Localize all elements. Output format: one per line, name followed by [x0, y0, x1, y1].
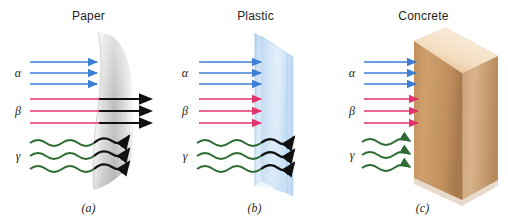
- plastic-slab-shape: [255, 33, 293, 196]
- panel-paper: Paper: [0, 0, 169, 222]
- ray-label-gamma-plastic: γ: [177, 149, 193, 164]
- concrete-block-shape: [414, 28, 498, 206]
- ray-label-gamma-paper: γ: [10, 149, 26, 164]
- ray-label-alpha-plastic: α: [177, 66, 193, 81]
- panel-caption-b: (b): [169, 201, 338, 216]
- alpha-rays-concrete: [364, 62, 416, 84]
- ray-label-beta-plastic: β: [177, 104, 193, 119]
- panel-caption-a: (a): [0, 201, 169, 216]
- ray-label-beta-paper: β: [10, 104, 26, 119]
- alpha-rays-plastic: [199, 62, 261, 84]
- ray-label-alpha-paper: α: [10, 66, 26, 81]
- alpha-rays-paper: [30, 62, 97, 84]
- radiation-penetration-figure: Paper: [0, 0, 508, 222]
- panel-concrete-graphic: [338, 0, 507, 222]
- panel-plastic-graphic: [169, 0, 338, 222]
- gamma-rays-concrete: [362, 139, 410, 171]
- beta-rays-plastic: [199, 99, 261, 123]
- beta-rays-concrete: [364, 99, 418, 123]
- panel-concrete: Concrete: [338, 0, 507, 222]
- panel-caption-c: (c): [338, 201, 507, 216]
- ray-label-gamma-concrete: γ: [344, 148, 360, 163]
- panel-plastic: Plastic: [169, 0, 338, 222]
- ray-label-beta-concrete: β: [344, 104, 360, 119]
- ray-label-alpha-concrete: α: [344, 66, 360, 81]
